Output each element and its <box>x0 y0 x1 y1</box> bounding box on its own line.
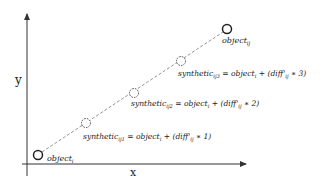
synthetic-point-2-icon <box>130 89 139 98</box>
synthetic-label-3: syntheticij3 = objecti + (diff'ij ∗ 3) <box>178 69 306 80</box>
target-label: objectij <box>222 36 251 47</box>
synthetic-point-1-icon <box>82 119 91 128</box>
y-axis-label: y <box>14 73 22 87</box>
synthetic-point-3-icon <box>177 57 186 66</box>
origin-label: objecti <box>47 154 74 164</box>
synthetic-label-2: syntheticij2 = objecti + (diff'ij ∗ 2) <box>131 99 259 110</box>
origin-point-icon <box>34 151 43 160</box>
interpolation-diagram: y x objecti objectij syntheticij1 = obje… <box>0 0 322 187</box>
x-axis-label: x <box>130 166 137 179</box>
synthetic-label-1: syntheticij1 = objecti + (diff'ij ∗ 1) <box>83 132 211 143</box>
target-point-icon <box>223 25 232 34</box>
